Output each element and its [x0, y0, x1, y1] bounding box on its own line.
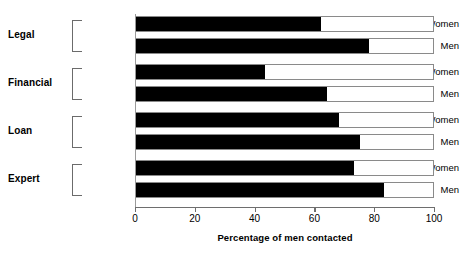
bar-fill: [136, 65, 265, 79]
bar-fill: [136, 183, 384, 197]
x-tick-label: 80: [354, 213, 394, 225]
group-bracket: [72, 116, 82, 148]
bar-row: [135, 182, 434, 198]
bar-fill: [136, 161, 354, 175]
y-axis-line: [135, 14, 136, 208]
bar-row: [135, 134, 434, 150]
group-label-legal: Legal: [8, 29, 70, 40]
x-tick: [255, 208, 256, 212]
x-tick: [195, 208, 196, 212]
x-tick: [374, 208, 375, 212]
x-tick-label: 0: [115, 213, 155, 225]
bar-fill: [136, 113, 339, 127]
bar-row: [135, 86, 434, 102]
x-tick: [434, 208, 435, 212]
group-label-expert: Expert: [8, 173, 70, 184]
bar-row: [135, 38, 434, 54]
bar-fill: [136, 87, 327, 101]
bar-row: [135, 16, 434, 32]
x-tick-label: 20: [175, 213, 215, 225]
x-tick-label: 60: [294, 213, 334, 225]
x-axis-title: Percentage of men contacted: [135, 232, 435, 243]
group-bracket: [72, 20, 82, 52]
bar-fill: [136, 17, 321, 31]
x-tick-label: 100: [414, 213, 454, 225]
group-label-financial: Financial: [8, 77, 70, 88]
x-tick-label: 40: [235, 213, 275, 225]
x-tick: [314, 208, 315, 212]
group-bracket: [72, 164, 82, 196]
group-bracket: [72, 68, 82, 100]
bar-row: [135, 112, 434, 128]
bar-fill: [136, 39, 369, 53]
bar-row: [135, 160, 434, 176]
bar-fill: [136, 135, 360, 149]
plot-area: [135, 16, 434, 206]
x-tick: [135, 208, 136, 212]
x-axis-line: [135, 207, 435, 208]
bar-row: [135, 64, 434, 80]
group-label-loan: Loan: [8, 125, 70, 136]
horizontal-bar-chart: WomenMenLegalWomenMenFinancialWomenMenLo…: [0, 0, 463, 257]
